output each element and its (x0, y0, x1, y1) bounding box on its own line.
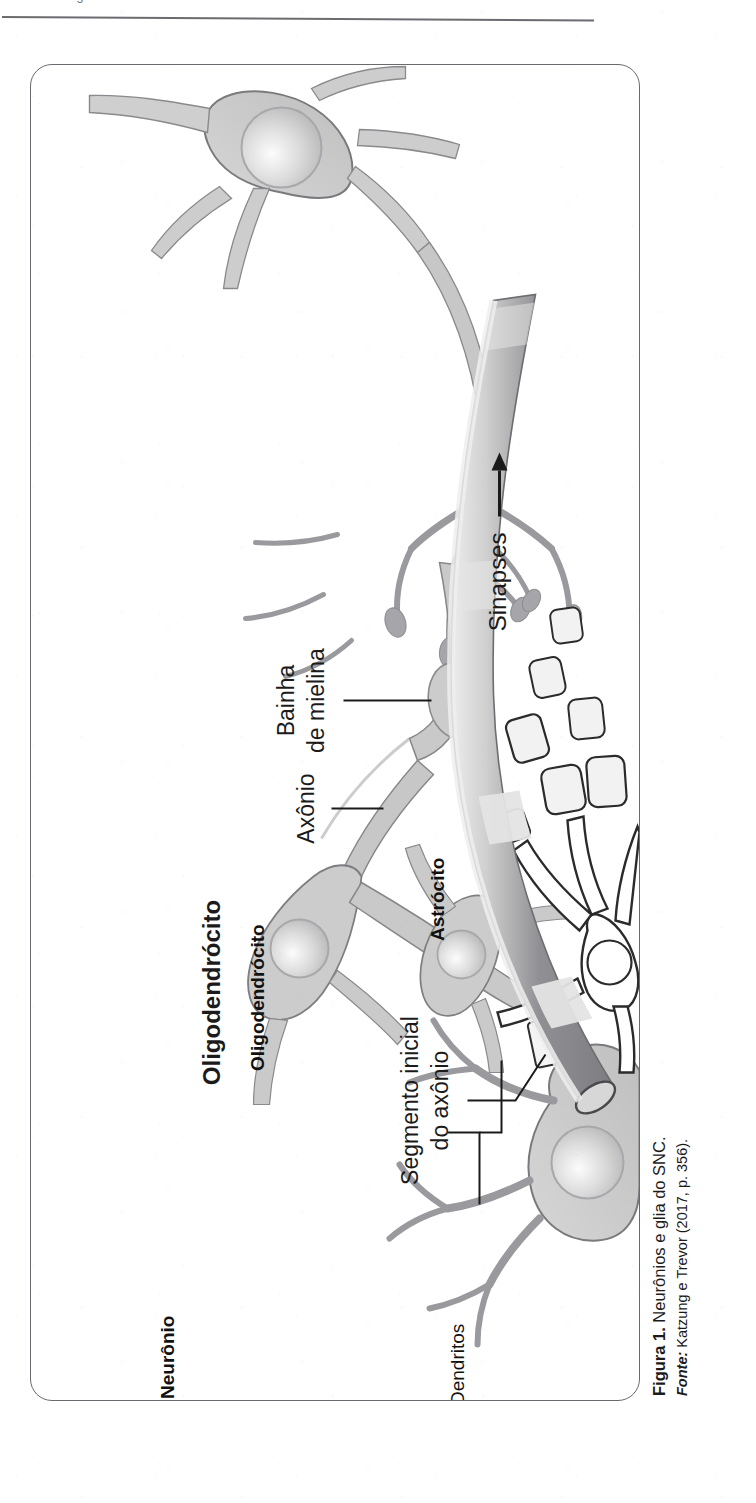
nucleus-second-glia (437, 930, 485, 978)
nucleus-oligodendrocyte (270, 919, 328, 977)
neuron-glia-diagram: Sinapses Bainha de mielina Axônio Oligod… (31, 65, 639, 1400)
header-horizontal-rule (2, 16, 594, 22)
figure-diagram-rotated-container: Sinapses Bainha de mielina Axônio Oligod… (31, 65, 639, 1400)
figure-frame: Sinapses Bainha de mielina Axônio Oligod… (30, 64, 640, 1401)
caption-title-line: Figura 1. Neurônios e glia do SNC. (648, 66, 670, 1396)
nucleus-astrocyte (587, 940, 631, 984)
label-segmento-2: do axônio (426, 1050, 452, 1150)
caption-figure-label: Figura 1. (650, 1327, 668, 1396)
label-bainha-1: Bainha (272, 664, 298, 736)
nucleus-top-neuron (241, 107, 321, 187)
caption-figure-title: Neurônios e glia do SNC. (650, 1136, 668, 1327)
nucleus-bottom-neuron (551, 1126, 623, 1198)
figure-caption: Figura 1. Neurônios e glia do SNC. Fonte… (648, 66, 693, 1396)
label-bainha-2: de mielina (302, 647, 328, 752)
label-axonio: Axônio (292, 773, 318, 843)
caption-source-text: Katzung e Trevor (2017, p. 356). (674, 1139, 690, 1352)
caption-source-line: Fonte: Katzung e Trevor (2017, p. 356). (673, 66, 693, 1396)
page-running-header: a Farmacologia do Sistema Nervoso Centra… (0, 0, 756, 30)
running-header-text: a Farmacologia do Sistema Nervoso Centra… (6, 0, 256, 3)
label-sinapses: Sinapses (483, 532, 510, 631)
neuron-soma-top (89, 66, 459, 288)
label-segmento-1: Segmento inicial (396, 1016, 422, 1185)
caption-source-label: Fonte: (674, 1352, 690, 1396)
